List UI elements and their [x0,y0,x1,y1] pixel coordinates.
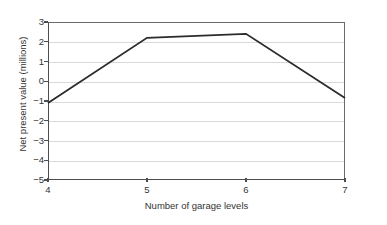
y-axis-tick-label: −1 [22,96,44,106]
y-axis-tick-label: 1 [22,57,44,67]
x-axis-title: Number of garage levels [48,200,345,211]
y-axis-tick-label: 3 [22,17,44,27]
y-axis-tick-label: −3 [22,136,44,146]
x-axis-tick-label: 4 [36,184,60,195]
x-axis-tick-mark [344,178,345,182]
series-polyline [48,34,345,103]
chart-figure: Net present value (millions) 3210−1−2−3−… [0,0,387,225]
y-axis-tick-labels: 3210−1−2−3−4−5 [20,22,44,180]
x-axis-tick-mark [245,178,246,182]
x-axis-ticks: 4567 [48,182,345,196]
y-axis-tick-label: 2 [22,37,44,47]
y-axis-tick-label: 0 [22,76,44,86]
data-series-line [48,22,345,180]
y-axis-tick-label: −4 [22,155,44,165]
x-axis-tick-label: 5 [135,184,159,195]
x-axis-tick-mark [47,178,48,182]
y-axis-tick-label: −2 [22,116,44,126]
x-axis-tick-label: 6 [234,184,258,195]
x-axis-tick-label: 7 [333,184,357,195]
x-axis-tick-mark [146,178,147,182]
